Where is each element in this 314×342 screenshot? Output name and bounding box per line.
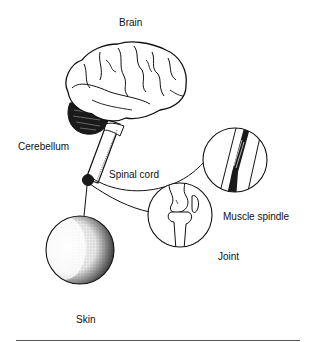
skin-illustration xyxy=(42,214,120,286)
label-brain: Brain xyxy=(119,17,142,29)
label-cerebellum: Cerebellum xyxy=(18,141,69,153)
bottom-divider xyxy=(16,340,300,341)
label-skin: Skin xyxy=(76,314,95,326)
joint-illustration xyxy=(148,180,212,250)
label-spinal-cord: Spinal cord xyxy=(109,169,159,181)
muscle-spindle-illustration xyxy=(203,128,267,200)
label-joint: Joint xyxy=(218,251,239,263)
brain-shape xyxy=(66,42,186,121)
label-muscle-spindle: Muscle spindle xyxy=(223,211,289,223)
spinal-ganglion xyxy=(83,175,94,186)
